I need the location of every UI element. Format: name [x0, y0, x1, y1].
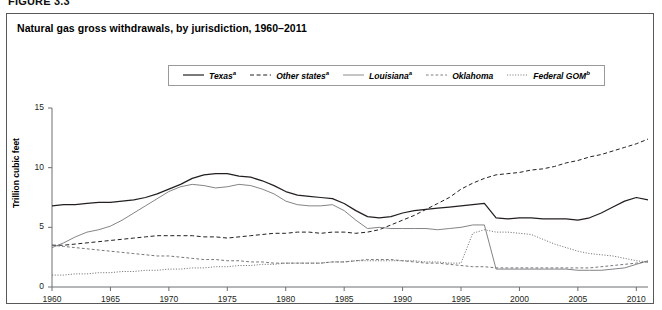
x-tick-label: 2005: [561, 294, 595, 304]
series-line-oklahoma: [52, 245, 648, 268]
y-tick-label: 5: [22, 221, 44, 231]
x-tick-label: 1960: [35, 294, 69, 304]
x-tick-label: 1990: [386, 294, 420, 304]
x-tick-label: 2010: [619, 294, 653, 304]
x-tick-label: 2000: [502, 294, 536, 304]
series-line-federal-gom: [52, 230, 648, 275]
x-tick-label: 1995: [444, 294, 478, 304]
x-tick-label: 1975: [210, 294, 244, 304]
series-line-texas: [52, 174, 648, 221]
x-tick-label: 1980: [269, 294, 303, 304]
x-tick-label: 1965: [93, 294, 127, 304]
x-tick-label: 1985: [327, 294, 361, 304]
plot-area: Trillion cubic feet 05101519601965197019…: [0, 0, 662, 310]
figure-container: FIGURE 3.3 Natural gas gross withdrawals…: [0, 0, 662, 310]
y-tick-label: 0: [22, 281, 44, 291]
y-tick-label: 10: [22, 162, 44, 172]
chart-canvas: [0, 0, 662, 310]
y-tick-label: 15: [22, 102, 44, 112]
x-tick-label: 1970: [152, 294, 186, 304]
series-line-other-states: [52, 139, 648, 245]
series-line-louisiana: [52, 184, 648, 270]
